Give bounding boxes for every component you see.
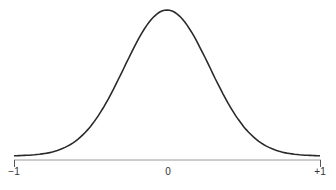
x-tick-label-max: +1 bbox=[314, 166, 325, 177]
x-tick-label-zero: 0 bbox=[165, 166, 171, 177]
bell-curve-line bbox=[14, 10, 320, 156]
x-tick-label-min: −1 bbox=[8, 166, 19, 177]
bell-curve-chart bbox=[0, 0, 336, 190]
